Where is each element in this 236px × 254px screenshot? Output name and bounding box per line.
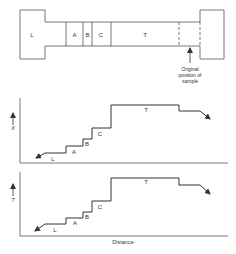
annotation-line-3: sample	[182, 78, 198, 84]
chart-x-label-l: L	[51, 156, 55, 162]
curve-end-arrow-icon	[200, 111, 210, 119]
chart-x-curve	[45, 105, 200, 153]
diagram-canvas: L A B C T Original position of sample X …	[0, 0, 236, 254]
chart-t-xlabel: Distance	[112, 239, 133, 245]
specimen-diagram	[20, 10, 224, 63]
label-b: B	[85, 32, 89, 38]
chart-t-label-c: C	[98, 204, 103, 210]
curve-start-arrow-icon	[35, 224, 45, 231]
label-c: C	[99, 32, 104, 38]
label-t: T	[143, 32, 147, 38]
chart-t-label-b: B	[85, 214, 89, 220]
label-l: L	[30, 32, 34, 38]
chart-x	[13, 98, 228, 163]
chart-x-label-t: T	[144, 107, 148, 113]
chart-t-label-a: A	[73, 220, 77, 226]
chart-t	[13, 172, 228, 236]
chart-x-label-a: A	[72, 149, 76, 155]
chart-t-label-t: T	[144, 179, 148, 185]
specimen-outline	[20, 10, 224, 59]
chart-t-curve	[45, 178, 200, 224]
chart-x-ylabel: X	[10, 125, 15, 131]
chart-t-axes	[20, 172, 228, 236]
chart-x-label-b: B	[85, 141, 89, 147]
label-a: A	[72, 32, 76, 38]
chart-t-label-l: L	[53, 227, 57, 233]
chart-t-ylabel: T	[11, 197, 15, 203]
curve-start-arrow-icon	[36, 153, 45, 158]
curve-end-arrow-icon	[200, 185, 210, 194]
chart-x-label-c: C	[98, 131, 103, 137]
